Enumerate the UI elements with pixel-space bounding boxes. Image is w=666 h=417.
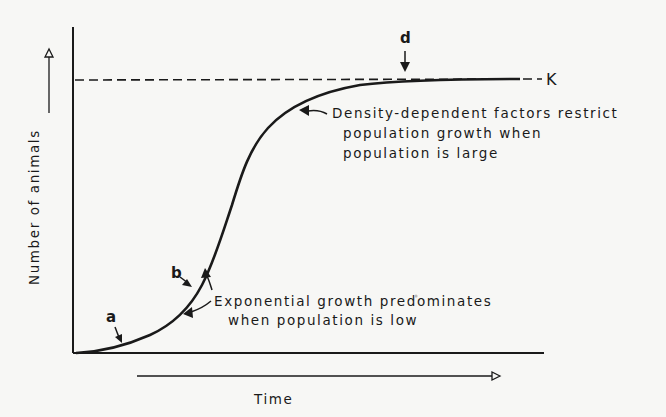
x-axis-label: Time	[253, 391, 293, 407]
upper-annotation-line2: population growth when	[343, 125, 542, 141]
lower-annotation-line1: Exponential growth predominates	[214, 293, 492, 309]
point-b-arrow-icon	[180, 277, 192, 287]
y-direction-arrow-icon	[45, 49, 53, 113]
lower-annotation-arrow-left-icon	[183, 301, 211, 318]
point-d-arrow-icon	[400, 51, 410, 72]
lower-annotation-arrow-up-icon	[201, 268, 212, 290]
point-a-arrow-icon	[115, 327, 122, 343]
lower-annotation: Exponential growth predominates when pop…	[214, 293, 492, 328]
logistic-growth-diagram: K Number of animals Time a b d Density-d…	[0, 0, 666, 417]
upper-annotation-line3: population is large	[343, 145, 499, 161]
upper-annotation: Density-dependent factors restrict popul…	[332, 105, 618, 161]
point-d-label: d	[400, 29, 411, 47]
y-axis-label: Number of animals	[26, 129, 42, 285]
point-b-label: b	[171, 264, 182, 282]
carrying-capacity-label: K	[546, 70, 557, 89]
upper-annotation-arrow-icon	[299, 105, 327, 116]
lower-annotation-line2: when population is low	[228, 312, 418, 328]
upper-annotation-line1: Density-dependent factors restrict	[332, 105, 618, 121]
speck	[414, 294, 417, 297]
point-a-label: a	[106, 308, 116, 326]
x-direction-arrow-icon	[137, 372, 500, 380]
